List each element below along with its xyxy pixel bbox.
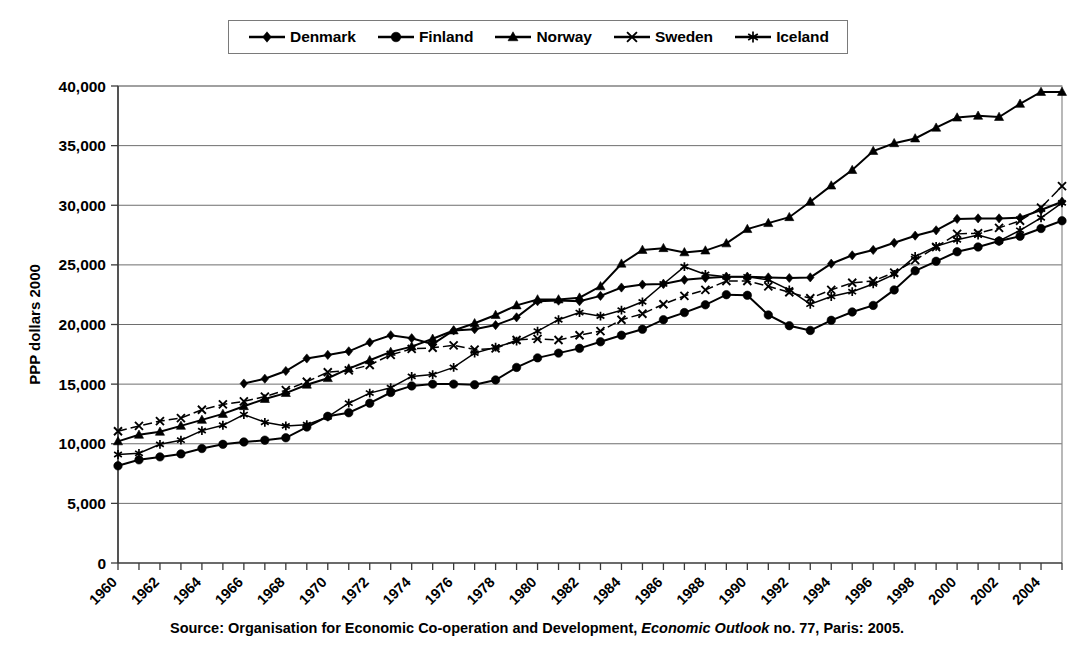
x-tick-label: 1974 <box>380 574 414 608</box>
x-tick-label: 2004 <box>1009 574 1043 608</box>
circle-marker <box>177 450 185 458</box>
diamond-marker <box>263 32 272 42</box>
legend-item-finland[interactable]: Finland <box>376 28 473 46</box>
diamond-marker <box>848 251 856 260</box>
source-publication: Economic Outlook <box>641 620 769 636</box>
triangle-marker <box>617 259 626 267</box>
circle-marker <box>391 32 401 42</box>
asterisk-marker <box>618 306 626 315</box>
x-marker <box>701 286 709 294</box>
diamond-marker <box>492 320 500 329</box>
chart-plot-area: 05,00010,00015,00020,00025,00030,00035,0… <box>0 56 1074 616</box>
asterisk-marker <box>1037 213 1045 222</box>
x-tick-label: 1990 <box>715 574 749 608</box>
diamond-marker <box>618 283 626 292</box>
x-tick-label: 1988 <box>673 574 707 608</box>
x-tick-label: 1978 <box>464 574 498 608</box>
circle-marker <box>848 308 856 316</box>
x-marker <box>638 310 646 318</box>
triangle-marker <box>722 239 731 247</box>
circle-marker <box>491 376 499 384</box>
y-tick-label: 30,000 <box>59 197 106 214</box>
x-tick-label: 1960 <box>86 574 120 608</box>
triangle-marker <box>1015 99 1024 107</box>
series-line <box>118 203 1062 455</box>
x-tick-label: 1982 <box>548 574 582 608</box>
circle-marker <box>156 453 164 461</box>
x-tick-label: 1964 <box>170 574 204 608</box>
x-tick-label: 1984 <box>589 574 623 608</box>
circle-marker <box>890 286 898 294</box>
circle-marker <box>366 399 374 407</box>
circle-marker <box>512 363 520 371</box>
x-tick-label: 1986 <box>631 574 665 608</box>
diamond-marker <box>282 366 290 375</box>
diamond-marker <box>806 273 814 282</box>
diamond-marker <box>324 350 332 359</box>
circle-marker <box>1058 217 1066 225</box>
legend-swatch-x-icon <box>612 28 652 46</box>
circle-marker <box>219 440 227 448</box>
x-tick-label: 1980 <box>506 574 540 608</box>
x-tick-label: 1970 <box>296 574 330 608</box>
x-marker <box>659 300 667 308</box>
asterisk-marker <box>450 363 458 372</box>
x-tick-label: 1996 <box>841 574 875 608</box>
diamond-marker <box>303 354 311 363</box>
y-axis-label: PPP dollars 2000 <box>26 264 43 385</box>
circle-marker <box>638 325 646 333</box>
diamond-marker <box>345 347 353 356</box>
x-tick-label: 1966 <box>212 574 246 608</box>
y-tick-label: 40,000 <box>59 78 106 95</box>
legend-label: Norway <box>536 28 591 46</box>
diamond-marker <box>597 291 605 300</box>
y-tick-label: 0 <box>97 555 106 572</box>
x-tick-label: 2000 <box>925 574 959 608</box>
circle-marker <box>869 301 877 309</box>
series-finland <box>114 217 1066 471</box>
chart-figure: DenmarkFinlandNorwaySwedenIceland 05,000… <box>0 0 1074 670</box>
series-line <box>118 186 1062 431</box>
source-note: Source: Organisation for Economic Co-ope… <box>0 620 1074 636</box>
legend-label: Finland <box>419 28 473 46</box>
diamond-marker <box>911 231 919 240</box>
source-suffix: no. 77, Paris: 2005. <box>773 620 904 636</box>
circle-marker <box>198 444 206 452</box>
y-axis-ticks: 05,00010,00015,00020,00025,00030,00035,0… <box>59 78 118 572</box>
circle-marker <box>701 301 709 309</box>
series-sweden <box>114 182 1066 435</box>
asterisk-marker <box>534 327 542 336</box>
circle-marker <box>428 380 436 388</box>
legend-item-iceland[interactable]: Iceland <box>733 28 829 46</box>
circle-marker <box>932 257 940 265</box>
circle-marker <box>722 290 730 298</box>
y-tick-label: 35,000 <box>59 137 106 154</box>
data-series-group <box>113 87 1066 470</box>
circle-marker <box>659 315 667 323</box>
legend-label: Iceland <box>776 28 829 46</box>
x-tick-label: 1992 <box>757 574 791 608</box>
legend-item-norway[interactable]: Norway <box>493 28 591 46</box>
asterisk-marker <box>345 399 353 408</box>
series-iceland <box>114 198 1066 458</box>
circle-marker <box>596 338 604 346</box>
circle-marker <box>806 326 814 334</box>
circle-marker <box>827 316 835 324</box>
diamond-marker <box>639 280 647 289</box>
legend-label: Sweden <box>655 28 713 46</box>
circle-marker <box>617 331 625 339</box>
circle-marker <box>974 243 982 251</box>
circle-marker <box>282 434 290 442</box>
circle-marker <box>680 308 688 316</box>
circle-marker <box>911 267 919 275</box>
circle-marker <box>575 344 583 352</box>
diamond-marker <box>953 214 961 223</box>
line-chart-svg: 05,00010,00015,00020,00025,00030,00035,0… <box>0 56 1074 616</box>
y-axis-title: PPP dollars 2000 <box>26 264 43 385</box>
legend-label: Denmark <box>290 28 356 46</box>
legend-item-sweden[interactable]: Sweden <box>612 28 713 46</box>
x-axis-ticks: 1960196219641966196819701972197419761978… <box>86 563 1062 608</box>
legend-item-denmark[interactable]: Denmark <box>247 28 356 46</box>
circle-marker <box>470 380 478 388</box>
x-tick-label: 1972 <box>338 574 372 608</box>
